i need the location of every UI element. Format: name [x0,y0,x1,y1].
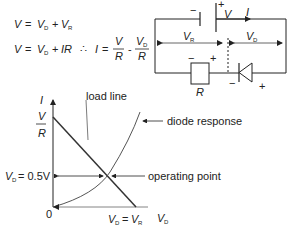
svg-text:= 0.5V: = 0.5V [18,170,51,182]
svg-text:=: = [25,18,31,30]
svg-text:V: V [14,43,23,55]
svg-text:R: R [38,127,46,139]
svg-text:I: I [246,6,249,18]
equation-3: I = V R - V D R [95,35,149,62]
svg-text:+: + [52,18,58,30]
svg-text:diode response: diode response [167,115,242,127]
diode-load-line-diagram: V = V D + V R V = V D + IR ∴ I = V R - V… [0,0,299,238]
svg-text:V: V [38,110,47,122]
svg-text:R: R [138,220,143,226]
svg-text:+: + [259,80,265,92]
svg-text:−: − [188,52,194,64]
svg-text:∴: ∴ [80,43,87,55]
svg-text:operating point: operating point [148,170,221,182]
svg-text:D: D [253,37,258,43]
equation-2: V = V D + IR ∴ [14,43,87,56]
diode-response-curve [53,112,140,207]
svg-text:0: 0 [46,208,52,220]
chart-labels: I V R load line diode response operating… [5,90,242,226]
svg-text:IR: IR [61,43,72,55]
svg-text:I: I [40,94,43,106]
svg-text:=: = [102,43,108,55]
chart [53,100,163,210]
svg-text:R: R [115,50,123,62]
resistor [191,63,209,84]
svg-text:-: - [128,43,132,55]
svg-text:D: D [12,177,17,183]
svg-text:+: + [210,52,216,64]
svg-text:−: − [229,77,235,89]
svg-text:V: V [115,35,124,47]
svg-text:V: V [14,18,23,30]
svg-text:I: I [95,43,98,55]
equation-1: V = V D + V R [14,18,73,31]
svg-text:load line: load line [86,90,127,102]
svg-text:R: R [190,37,195,43]
svg-text:D: D [143,42,148,48]
svg-text:R: R [138,50,146,62]
svg-text:−: − [190,4,196,16]
svg-text:=: = [25,43,31,55]
diode-triangle [239,63,252,82]
svg-text:D: D [44,25,49,31]
svg-text:R: R [196,86,204,98]
svg-text:+: + [52,43,58,55]
svg-text:R: R [68,25,73,31]
svg-text:D: D [164,219,169,225]
load-line [53,117,136,207]
svg-text:V: V [224,8,233,20]
svg-text:=: = [122,213,128,225]
svg-text:D: D [44,50,49,56]
svg-text:D: D [115,220,120,226]
circuit [155,3,286,84]
